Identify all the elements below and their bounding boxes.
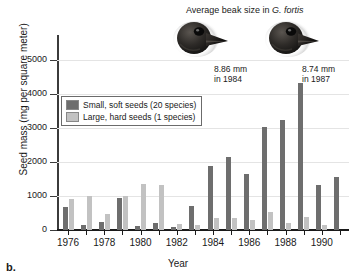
chart-legend: Small, soft seeds (20 species) Large, ha… bbox=[61, 96, 202, 126]
y-tick-label: 4000 bbox=[27, 89, 47, 98]
legend-label-small-seeds: Small, soft seeds (20 species) bbox=[83, 101, 196, 110]
bar-small-seeds-1988 bbox=[280, 120, 285, 230]
x-tick bbox=[86, 231, 87, 235]
bar-small-seeds-1983 bbox=[189, 206, 194, 230]
bar-small-seeds-1981 bbox=[153, 223, 158, 230]
y-tick-label: 1000 bbox=[27, 191, 47, 200]
y-tick-label: 0 bbox=[42, 225, 47, 234]
bar-small-seeds-1989 bbox=[298, 83, 303, 230]
y-tick-label: 3000 bbox=[27, 123, 47, 132]
bar-large-seeds-1980 bbox=[141, 184, 146, 230]
y-tick bbox=[50, 196, 57, 197]
bar-small-seeds-1978 bbox=[99, 222, 104, 230]
bar-small-seeds-1985 bbox=[226, 157, 231, 230]
bar-small-seeds-1987 bbox=[262, 127, 267, 230]
y-tick bbox=[50, 94, 57, 95]
x-tick bbox=[286, 231, 287, 235]
x-tick bbox=[213, 231, 214, 235]
y-tick bbox=[50, 128, 57, 129]
x-tick bbox=[68, 231, 69, 235]
x-tick bbox=[141, 231, 142, 235]
x-tick-label: 1988 bbox=[274, 237, 296, 248]
bar-small-seeds-1990 bbox=[316, 185, 321, 230]
figure-panel: Average beak size in G. fortis bbox=[0, 0, 356, 280]
y-tick bbox=[50, 162, 57, 163]
legend-item-large-seeds: Large, hard seeds (1 species) bbox=[66, 112, 196, 122]
beak-title-species: G. fortis bbox=[272, 5, 304, 15]
legend-swatch-small-seeds bbox=[66, 100, 79, 110]
bar-large-seeds-1981 bbox=[159, 185, 164, 230]
y-axis-title: Seed mass (mg per square meter) bbox=[18, 26, 29, 176]
bar-large-seeds-1979 bbox=[123, 196, 128, 230]
bar-small-seeds-1980 bbox=[135, 226, 140, 230]
x-tick bbox=[177, 231, 178, 235]
x-tick-label: 1986 bbox=[238, 237, 260, 248]
bar-large-seeds-1982 bbox=[177, 224, 182, 230]
x-tick bbox=[231, 231, 232, 235]
beak-title-prefix: Average beak size in bbox=[186, 5, 272, 15]
x-tick bbox=[304, 231, 305, 235]
bar-small-seeds-1986 bbox=[244, 174, 249, 230]
x-tick bbox=[249, 231, 250, 235]
panel-label: b. bbox=[6, 261, 16, 273]
bar-small-seeds-1979 bbox=[117, 198, 122, 230]
y-tick-label: 5000 bbox=[27, 55, 47, 64]
bar-small-seeds-1977 bbox=[81, 225, 86, 230]
x-tick-label: 1976 bbox=[57, 237, 79, 248]
legend-swatch-large-seeds bbox=[66, 112, 79, 122]
bar-large-seeds-1988 bbox=[286, 223, 291, 230]
bar-large-seeds-1985 bbox=[232, 218, 237, 230]
bar-small-seeds-1984 bbox=[208, 166, 213, 230]
bar-small-seeds-1976 bbox=[63, 207, 68, 230]
bar-small-seeds-1991 bbox=[334, 177, 339, 230]
bar-large-seeds-1989 bbox=[304, 217, 309, 230]
x-tick-label: 1978 bbox=[93, 237, 115, 248]
x-tick bbox=[322, 231, 323, 235]
x-tick bbox=[267, 231, 268, 235]
beak-annotation-title: Average beak size in G. fortis bbox=[186, 5, 303, 15]
bar-large-seeds-1977 bbox=[87, 196, 92, 230]
bar-large-seeds-1983 bbox=[195, 225, 200, 230]
x-tick bbox=[159, 231, 160, 235]
bar-large-seeds-1976 bbox=[69, 199, 74, 230]
legend-item-small-seeds: Small, soft seeds (20 species) bbox=[66, 100, 196, 110]
x-tick-label: 1980 bbox=[129, 237, 151, 248]
bar-large-seeds-1986 bbox=[250, 220, 255, 230]
x-tick bbox=[340, 231, 341, 235]
x-tick bbox=[104, 231, 105, 235]
x-axis-title: Year bbox=[0, 258, 356, 269]
legend-label-large-seeds: Large, hard seeds (1 species) bbox=[83, 113, 195, 122]
bar-series-layer bbox=[57, 35, 352, 230]
bar-large-seeds-1990 bbox=[322, 225, 327, 230]
x-tick-label: 1982 bbox=[166, 237, 188, 248]
y-tick-label: 2000 bbox=[27, 157, 47, 166]
x-tick-label: 1984 bbox=[202, 237, 224, 248]
x-tick bbox=[195, 231, 196, 235]
x-tick-label: 1990 bbox=[311, 237, 333, 248]
y-tick bbox=[50, 230, 57, 231]
bar-large-seeds-1978 bbox=[105, 214, 110, 230]
bar-large-seeds-1987 bbox=[268, 212, 273, 230]
bar-large-seeds-1984 bbox=[214, 218, 219, 230]
y-tick bbox=[50, 60, 57, 61]
bar-small-seeds-1982 bbox=[171, 227, 176, 230]
x-tick bbox=[122, 231, 123, 235]
